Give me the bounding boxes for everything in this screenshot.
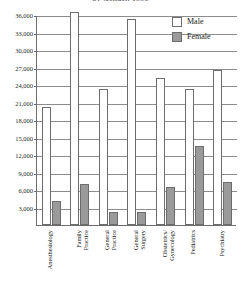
bar-group bbox=[37, 15, 66, 225]
y-tick-label: 15,000 bbox=[0, 136, 33, 143]
bar-female bbox=[80, 184, 89, 225]
y-tick-label: 6,000 bbox=[0, 188, 33, 195]
bar-group bbox=[66, 15, 95, 225]
bar-female bbox=[137, 212, 146, 225]
y-tick-label: 21,000 bbox=[0, 101, 33, 108]
y-tick-label: 3,000 bbox=[0, 206, 33, 213]
y-tick-label: 12,000 bbox=[0, 153, 33, 160]
y-tick-label: 36,000 bbox=[0, 13, 33, 20]
chart-title: by Gender, 1998 bbox=[0, 0, 241, 1]
y-tick-label: 27,000 bbox=[0, 66, 33, 73]
bar-group bbox=[94, 15, 123, 225]
bar-female bbox=[52, 201, 61, 226]
legend-label: Male bbox=[187, 17, 203, 26]
bar-chart: by Gender, 1998 36,00033,00030,00027,000… bbox=[0, 0, 241, 283]
x-tick-label: FamilyPractice bbox=[75, 230, 89, 250]
bar-female bbox=[109, 212, 118, 225]
bar-female bbox=[223, 182, 232, 225]
y-tick-label: 24,000 bbox=[0, 83, 33, 90]
legend-label: Female bbox=[187, 32, 211, 41]
legend-item-male: Male bbox=[172, 14, 238, 29]
y-tick-label: 18,000 bbox=[0, 118, 33, 125]
bar-male bbox=[156, 78, 165, 225]
x-tick-label: Obstetrics/Gynecology bbox=[161, 230, 175, 261]
y-tick-label: 33,000 bbox=[0, 31, 33, 38]
x-tick-label: GeneralSurgery bbox=[132, 230, 146, 250]
bar-female bbox=[166, 187, 175, 226]
bar-male bbox=[213, 70, 222, 225]
x-tick-label: Pediatrics bbox=[189, 230, 196, 255]
x-tick-label: GeneralPractice bbox=[103, 230, 117, 250]
y-tick-label: 30,000 bbox=[0, 48, 33, 55]
y-tick-label: 9,000 bbox=[0, 171, 33, 178]
bar-group bbox=[151, 15, 180, 225]
x-tick-label: Psychiatry bbox=[218, 230, 225, 257]
chart-legend: MaleFemale bbox=[172, 14, 238, 44]
bar-male bbox=[99, 89, 108, 226]
legend-swatch-male bbox=[172, 17, 182, 27]
bar-male bbox=[127, 19, 136, 226]
legend-item-female: Female bbox=[172, 29, 238, 44]
legend-swatch-female bbox=[172, 32, 182, 42]
bar-group bbox=[208, 15, 237, 225]
bar-group bbox=[123, 15, 152, 225]
bar-group bbox=[180, 15, 209, 225]
plot-area bbox=[36, 16, 236, 226]
bar-male bbox=[70, 12, 79, 225]
x-tick-label: Anesthesiology bbox=[46, 230, 53, 269]
bar-female bbox=[195, 146, 204, 225]
bar-male bbox=[42, 107, 51, 225]
bar-male bbox=[185, 89, 194, 226]
